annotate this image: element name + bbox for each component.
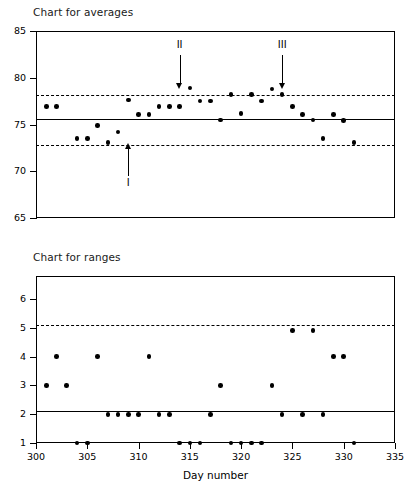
data-point	[85, 136, 90, 141]
chart-title-averages: Chart for averages	[33, 6, 133, 18]
data-point	[229, 441, 234, 446]
x-axis-tick-label: 315	[173, 451, 207, 462]
data-point	[188, 441, 193, 446]
averages-plot-frame	[36, 31, 395, 218]
y-axis-tick-label: 4	[0, 351, 26, 362]
data-point	[218, 383, 223, 388]
data-point	[177, 104, 182, 109]
x-axis-tick	[344, 443, 345, 449]
data-point	[157, 412, 162, 417]
data-point	[239, 441, 244, 446]
data-point	[147, 112, 152, 117]
x-axis-tick-label: 305	[70, 451, 104, 462]
y-axis-tick-label: 80	[0, 72, 26, 83]
y-axis-tick-label: 85	[0, 25, 26, 36]
y-axis-tick-label: 3	[0, 379, 26, 390]
x-axis-tick	[139, 443, 140, 449]
y-axis-tick	[30, 385, 37, 386]
y-axis-tick	[30, 414, 37, 415]
data-point	[249, 441, 254, 446]
data-point	[270, 383, 275, 388]
data-point	[331, 354, 336, 359]
arrow-down-icon	[176, 83, 182, 89]
y-axis-tick-label: 6	[0, 293, 26, 304]
x-axis-tick-label: 330	[327, 451, 361, 462]
y-axis-tick-label: 75	[0, 119, 26, 130]
y-axis-tick-label: 2	[0, 408, 26, 419]
data-point	[54, 354, 59, 359]
data-point	[177, 441, 182, 446]
data-point	[167, 104, 172, 109]
y-axis-tick	[30, 78, 37, 79]
y-axis-tick	[30, 328, 37, 329]
x-axis-tick-label: 300	[19, 451, 53, 462]
data-point	[75, 441, 80, 446]
data-point	[290, 104, 295, 109]
data-point	[75, 136, 80, 141]
x-axis-tick-label: 335	[378, 451, 412, 462]
data-point	[341, 354, 346, 359]
data-point	[259, 441, 264, 446]
data-point	[44, 383, 49, 388]
annotation-label-iii: III	[278, 39, 287, 50]
y-axis-tick	[30, 171, 37, 172]
data-point	[116, 412, 121, 417]
lower-control-limit	[36, 145, 395, 146]
data-point	[126, 98, 131, 103]
center-line	[36, 411, 395, 412]
data-point	[218, 118, 223, 123]
data-point	[290, 328, 295, 333]
figure-root: Chart for averages 6570758085IIIIII Char…	[0, 0, 417, 490]
x-axis-tick-label: 320	[224, 451, 258, 462]
data-point	[249, 92, 254, 97]
x-axis-tick-label: 310	[122, 451, 156, 462]
data-point	[95, 354, 100, 359]
x-axis-tick	[395, 443, 396, 449]
data-point	[147, 354, 152, 359]
data-point	[331, 112, 336, 117]
data-point	[300, 412, 305, 417]
data-point	[95, 123, 100, 128]
data-point	[85, 441, 90, 446]
x-axis-tick	[292, 443, 293, 449]
ranges-plot-area: 123456300305310315320325330335	[36, 276, 395, 443]
x-axis-tick-label: 325	[275, 451, 309, 462]
annotation-label-i: I	[127, 177, 130, 188]
x-axis-tick	[36, 443, 37, 449]
averages-plot-area: 6570758085IIIIII	[36, 31, 395, 218]
y-axis-tick	[30, 357, 37, 358]
data-point	[167, 412, 172, 417]
data-point	[352, 441, 357, 446]
data-point	[54, 104, 59, 109]
data-point	[341, 118, 346, 123]
data-point	[239, 111, 244, 116]
y-axis-tick	[30, 125, 37, 126]
y-axis-tick-label: 70	[0, 165, 26, 176]
y-axis-tick	[30, 31, 37, 32]
data-point	[106, 140, 111, 145]
data-point	[44, 104, 49, 109]
data-point	[208, 412, 213, 417]
y-axis-tick	[30, 218, 37, 219]
data-point	[229, 92, 234, 97]
annotation-arrow-shaft	[282, 55, 283, 85]
data-point	[300, 112, 305, 117]
data-point	[106, 412, 111, 417]
data-point	[136, 112, 141, 117]
upper-control-limit	[36, 325, 395, 326]
annotation-arrow-shaft	[180, 55, 181, 85]
y-axis-tick-label: 65	[0, 212, 26, 223]
upper-control-limit	[36, 95, 395, 96]
annotation-arrow-shaft	[128, 148, 129, 176]
data-point	[126, 412, 131, 417]
data-point	[280, 412, 285, 417]
ranges-plot-frame	[36, 276, 395, 443]
data-point	[198, 441, 203, 446]
chart-title-ranges: Chart for ranges	[33, 251, 121, 263]
data-point	[208, 99, 213, 104]
x-axis-title: Day number	[183, 469, 248, 481]
arrow-down-icon	[279, 83, 285, 89]
y-axis-tick-label: 5	[0, 322, 26, 333]
y-axis-tick-label: 1	[0, 437, 26, 448]
data-point	[64, 383, 69, 388]
